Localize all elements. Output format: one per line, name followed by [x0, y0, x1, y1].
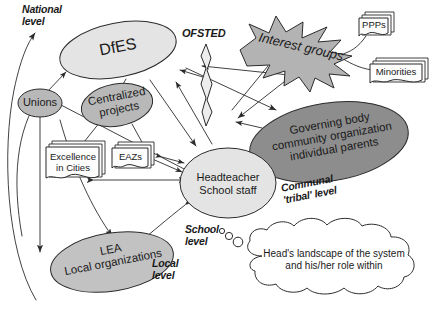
- level-label-school: School level: [185, 224, 219, 248]
- diagram-canvas: National level Local level School level …: [0, 0, 436, 311]
- level-label-local: Local level: [152, 258, 178, 282]
- node-thought-cloud[interactable]: [248, 218, 414, 294]
- node-ppps[interactable]: [359, 12, 394, 36]
- thought-tail: [219, 228, 242, 246]
- node-unions[interactable]: [18, 89, 62, 117]
- node-minorities[interactable]: [370, 58, 428, 83]
- node-interest-groups[interactable]: [240, 16, 352, 92]
- level-label-national: National level: [22, 4, 62, 28]
- node-headteacher[interactable]: [180, 148, 276, 218]
- node-eazs[interactable]: [112, 142, 154, 168]
- node-dfes[interactable]: [55, 12, 181, 88]
- node-excellence-in-cities[interactable]: [46, 141, 105, 178]
- node-centralized-projects[interactable]: [78, 78, 156, 132]
- node-label-ofsted: OFSTED: [182, 27, 225, 39]
- shape-layer: [0, 0, 436, 311]
- footer-strip: [0, 299, 436, 311]
- node-ofsted-lightning[interactable]: [201, 44, 212, 126]
